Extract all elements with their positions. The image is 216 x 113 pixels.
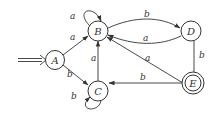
state-label: B xyxy=(93,26,101,37)
state-e-accepting: E xyxy=(182,72,204,94)
edge-label: a xyxy=(143,33,148,43)
state-d: D xyxy=(181,21,201,41)
edge-label: b xyxy=(140,72,146,82)
state-label: A xyxy=(50,55,58,66)
edge-b-to-d: b xyxy=(108,9,180,28)
edge-a-to-c: b xyxy=(63,65,88,85)
edge-label: b xyxy=(199,50,205,60)
edge-c-to-b: a xyxy=(91,41,98,81)
state-label: D xyxy=(186,26,195,37)
automaton-diagram: a b a b a b a b a b xyxy=(0,0,216,113)
edge-label: a xyxy=(70,32,75,42)
edge-a-to-b: a xyxy=(63,32,88,55)
edge-label: a xyxy=(70,11,75,21)
edge-label: b xyxy=(67,69,73,79)
start-arrow xyxy=(18,55,46,65)
edge-e-to-c: b xyxy=(109,72,182,83)
state-label: C xyxy=(94,86,102,97)
state-b: B xyxy=(88,21,108,41)
state-a: A xyxy=(46,51,65,70)
edge-label: b xyxy=(144,9,150,19)
state-label: E xyxy=(188,78,197,89)
edge-label: a xyxy=(91,53,96,63)
edge-d-to-b: a xyxy=(108,33,181,43)
edge-label: a xyxy=(145,53,150,63)
edge-label: b xyxy=(71,91,77,101)
state-c: C xyxy=(88,81,108,101)
